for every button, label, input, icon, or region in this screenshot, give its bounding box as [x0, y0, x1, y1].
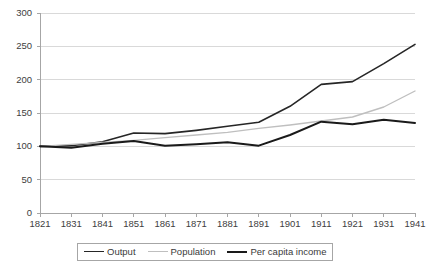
plot-area [40, 13, 415, 213]
x-tick-label: 1831 [61, 218, 82, 230]
series-lines [40, 13, 415, 213]
legend-item-population[interactable]: Population [148, 246, 216, 257]
x-tick-label: 1941 [404, 218, 425, 230]
x-tick-label: 1861 [154, 218, 175, 230]
series-line-output [40, 44, 415, 146]
x-tick-label: 1921 [342, 218, 363, 230]
y-tick-label: 250 [16, 41, 32, 51]
y-tick-label: 150 [16, 108, 32, 118]
y-tick-label: 300 [16, 8, 32, 18]
legend-swatch-icon [148, 251, 168, 252]
x-tick-label: 1821 [29, 218, 50, 230]
legend-label: Per capita income [250, 246, 326, 257]
legend-item-per-capita-income[interactable]: Per capita income [227, 246, 326, 257]
series-line-population [40, 91, 415, 146]
x-axis: 1821183118411851186118711881189119011911… [40, 218, 415, 234]
x-tick-label: 1891 [248, 218, 269, 230]
x-tick-label: 1911 [311, 218, 331, 230]
legend-label: Output [107, 246, 136, 257]
y-axis: 050100150200250300 [0, 0, 36, 226]
x-tick-label: 1851 [123, 218, 144, 230]
legend-swatch-icon [227, 251, 247, 253]
legend-item-output[interactable]: Output [84, 246, 136, 257]
chart-legend: OutputPopulationPer capita income [77, 243, 333, 261]
x-tick-label: 1901 [279, 218, 300, 230]
y-tick-label: 50 [21, 175, 32, 185]
x-tick-label: 1841 [92, 218, 113, 230]
legend-label: Population [171, 246, 216, 257]
x-tick-label: 1881 [217, 218, 238, 230]
x-tick-label: 1871 [186, 218, 207, 230]
y-tick-label: 200 [16, 75, 32, 85]
series-line-per-capita-income [40, 120, 415, 148]
y-tick-label: 0 [27, 208, 32, 218]
legend-swatch-icon [84, 251, 104, 252]
x-tick-label: 1931 [373, 218, 394, 230]
y-tick-label: 100 [16, 141, 32, 151]
